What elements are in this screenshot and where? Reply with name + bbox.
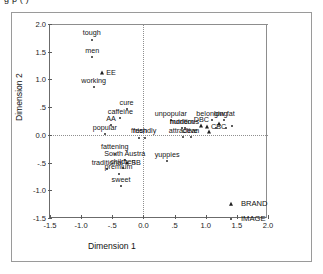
y-axis-tick — [48, 107, 52, 108]
triangle-up-icon — [199, 124, 203, 128]
triangle-up-icon — [125, 160, 129, 164]
clipped-title-text: g p ( ) — [4, 0, 29, 4]
y-axis-tick-label: 2.0 — [35, 20, 46, 29]
x-axis-tick-label: .5 — [171, 221, 177, 230]
dot-icon — [215, 127, 217, 129]
plot-area: Dimension 2 Dimension 1 -1.5-1.0-.50.0.5… — [12, 13, 313, 263]
legend-label-image: IMAGE — [241, 214, 265, 223]
data-point-label: DBC — [194, 116, 209, 123]
legend-label-brand: BRAND — [241, 199, 268, 208]
y-axis-tick — [48, 24, 52, 25]
data-point-label: friendly — [133, 127, 156, 134]
legend-item-image: IMAGE — [228, 212, 302, 227]
y-axis-title: Dimension 2 — [14, 73, 24, 121]
triangle-up-icon — [205, 125, 209, 129]
dot-icon — [231, 125, 233, 127]
dot-icon — [190, 136, 192, 138]
data-point-label: tough — [83, 29, 101, 36]
x-axis-tick — [112, 215, 113, 219]
dot-icon — [91, 39, 93, 41]
vertical-reference-line — [143, 24, 144, 218]
data-point-label: sweet — [112, 176, 131, 183]
dot-icon — [211, 119, 213, 121]
y-axis-tick — [48, 52, 52, 53]
x-axis-tick — [206, 215, 207, 219]
data-point-label: EE — [106, 69, 116, 76]
y-axis-tick — [48, 163, 52, 164]
data-point-label: SB — [131, 159, 141, 166]
dot-icon — [225, 127, 227, 129]
data-point-label: AA — [106, 115, 116, 122]
data-point-label: premium — [105, 163, 133, 170]
y-axis-tick-label: 1.0 — [35, 75, 46, 84]
y-axis-tick-label: -1.0 — [33, 186, 46, 195]
clipped-title-strip: g p ( ) — [0, 0, 323, 9]
x-axis-tick-label: 1.0 — [200, 221, 211, 230]
data-point-label: working — [81, 77, 106, 84]
triangle-up-icon — [217, 121, 221, 125]
y-axis-tick — [48, 79, 52, 80]
x-axis-tick — [81, 215, 82, 219]
data-point-label: South Austra — [104, 150, 145, 157]
x-axis-tick-label: -1.0 — [75, 221, 88, 230]
data-point-label: yuppies — [155, 151, 180, 158]
x-axis-tick-label: -1.5 — [43, 221, 56, 230]
horizontal-reference-line — [50, 135, 268, 136]
triangle-up-icon — [207, 130, 211, 134]
x-axis-tick — [143, 215, 144, 219]
y-axis-tick — [48, 135, 52, 136]
x-axis-tick-label: 0.0 — [138, 221, 149, 230]
data-point-label: low fat — [214, 110, 235, 117]
data-point-label: cure — [120, 99, 134, 106]
dot-icon — [104, 133, 106, 135]
dot-icon — [120, 185, 122, 187]
dot-icon — [119, 117, 121, 119]
y-axis-tick-label: -.5 — [37, 158, 46, 167]
x-axis-title: Dimension 1 — [88, 241, 136, 251]
dot-icon — [182, 136, 184, 138]
legend-item-brand: BRAND — [228, 197, 302, 212]
data-point-label: men — [85, 47, 99, 54]
dot-icon — [166, 160, 168, 162]
x-axis-tick — [50, 215, 51, 219]
dot-icon — [223, 119, 225, 121]
y-axis-tick-label: 0.0 — [35, 130, 46, 139]
dot-icon — [144, 137, 146, 139]
figure-frame: Dimension 2 Dimension 1 -1.5-1.0-.50.0.5… — [11, 12, 312, 262]
x-axis-tick — [175, 215, 176, 219]
dot-icon — [230, 218, 232, 220]
dot-icon — [91, 56, 93, 58]
dot-icon — [93, 86, 95, 88]
y-axis-tick — [48, 190, 52, 191]
triangle-up-icon — [100, 70, 104, 74]
y-axis-tick-label: .5 — [40, 103, 46, 112]
data-region: -1.5-1.0-.50.0.51.01.52.0-1.5-1.0-.50.0.… — [49, 24, 267, 218]
data-point-label: popular — [93, 124, 117, 131]
x-axis-tick-label: -.5 — [108, 221, 117, 230]
figure-root: g p ( ) Dimension 2 Dimension 1 -1.5-1.0… — [0, 0, 323, 274]
dot-icon — [138, 137, 140, 139]
data-point-label: clean — [182, 127, 199, 134]
y-axis-tick-label: 1.5 — [35, 47, 46, 56]
triangle-up-icon — [229, 202, 233, 206]
legend: BRAND IMAGE — [228, 197, 302, 227]
